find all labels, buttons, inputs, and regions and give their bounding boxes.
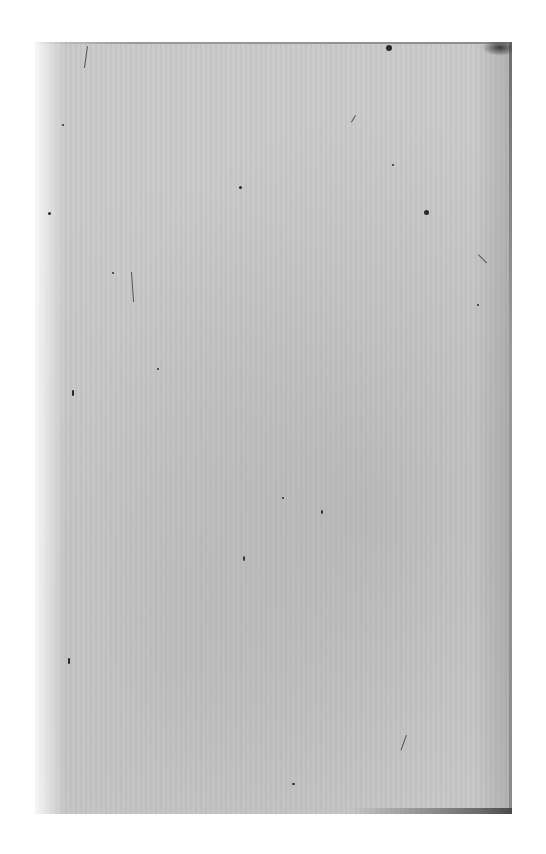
paper-scratch bbox=[131, 272, 134, 302]
page-top-edge bbox=[35, 42, 512, 44]
paper-scratch bbox=[401, 735, 407, 750]
scanned-blank-page bbox=[35, 42, 512, 814]
corner-smudge bbox=[482, 42, 512, 56]
ink-speck bbox=[62, 124, 64, 126]
ink-speck bbox=[112, 272, 114, 274]
ink-speck bbox=[321, 510, 323, 514]
ink-speck bbox=[48, 212, 51, 215]
ink-speck bbox=[292, 783, 295, 785]
bottom-edge-smudge bbox=[352, 808, 512, 814]
ink-speck bbox=[239, 186, 242, 189]
ink-speck bbox=[392, 164, 394, 166]
ink-speck bbox=[282, 497, 284, 499]
paper-scratch bbox=[351, 115, 356, 122]
paper-scratch bbox=[478, 254, 487, 263]
ink-speck bbox=[477, 304, 479, 306]
ink-speck bbox=[243, 556, 245, 561]
ink-speck bbox=[157, 368, 159, 370]
ink-speck bbox=[68, 658, 70, 664]
ink-speck bbox=[424, 210, 429, 215]
ink-speck bbox=[386, 45, 392, 51]
ink-speck bbox=[72, 390, 74, 396]
paper-scratch bbox=[84, 46, 88, 68]
page-right-edge bbox=[509, 42, 512, 814]
